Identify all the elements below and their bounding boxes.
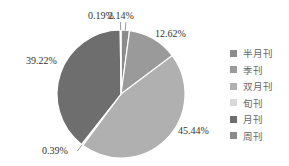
- legend-label: 双月刊: [243, 79, 273, 93]
- legend-label: 半月刊: [243, 46, 273, 60]
- slice-label: 39.22%: [26, 55, 57, 66]
- legend-swatch: [230, 132, 237, 139]
- slice-label: 45.44%: [178, 125, 209, 136]
- legend-swatch: [230, 99, 237, 106]
- legend-item-yuekan: 月刊: [230, 111, 273, 128]
- legend-swatch: [230, 66, 237, 73]
- legend-label: 周刊: [243, 129, 263, 143]
- slice-label: 0.39%: [42, 145, 68, 156]
- legend-swatch: [230, 116, 237, 123]
- legend-swatch: [230, 83, 237, 90]
- slice-label: 12.62%: [155, 28, 186, 39]
- legend-item-shuangyuekan: 双月刊: [230, 78, 273, 95]
- legend-item-jikan: 季刊: [230, 62, 273, 79]
- legend: 半月刊 季刊 双月刊 旬刊 月刊 周刊: [230, 45, 273, 144]
- legend-label: 季刊: [243, 63, 263, 77]
- slice-label: 0.19%: [88, 10, 114, 21]
- pie-slices: [57, 30, 185, 158]
- pie-slice: [120, 30, 121, 94]
- legend-label: 旬刊: [243, 96, 263, 110]
- legend-item-banyuekan: 半月刊: [230, 45, 273, 62]
- legend-item-xunkan: 旬刊: [230, 95, 273, 112]
- legend-swatch: [230, 50, 237, 57]
- legend-item-zhoukan: 周刊: [230, 128, 273, 145]
- legend-label: 月刊: [243, 112, 263, 126]
